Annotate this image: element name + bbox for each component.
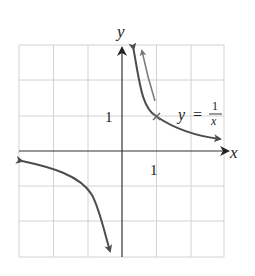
function-equals: = — [193, 106, 202, 123]
x-tick-1: 1 — [150, 162, 158, 178]
curve-branch-negative — [22, 161, 110, 251]
x-axis-label: x — [229, 143, 238, 162]
motion-hint-arrow — [142, 51, 155, 101]
y-tick-1: 1 — [105, 109, 113, 125]
function-numerator: 1 — [212, 99, 218, 113]
y-axis-label: y — [115, 22, 125, 41]
function-lhs: y — [176, 106, 186, 124]
graph-y-equals-1-over-x: y x 1 1 y = 1 x — [0, 0, 255, 276]
function-label: y = 1 x — [176, 99, 222, 128]
function-denominator: x — [210, 114, 217, 128]
curve-branch-positive — [134, 49, 221, 139]
